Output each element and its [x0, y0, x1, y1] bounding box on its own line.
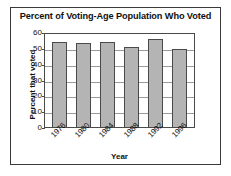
bar: [100, 42, 115, 127]
y-tick-mark: [42, 128, 45, 129]
y-tick-mark: [42, 65, 45, 66]
y-tick-label: 50: [28, 45, 42, 53]
bar: [76, 43, 91, 127]
y-tick-label: 60: [28, 29, 42, 37]
y-tick-label: 30: [28, 77, 42, 85]
y-tick-mark: [42, 96, 45, 97]
bar-series: [45, 34, 194, 127]
bar: [172, 49, 187, 127]
y-tick-label: 0: [28, 124, 42, 132]
bar: [52, 42, 67, 128]
y-tick-mark: [42, 112, 45, 113]
y-tick-mark: [42, 33, 45, 34]
x-axis-label: Year: [44, 152, 195, 161]
chart-title: Percent of Voting-Age Population Who Vot…: [10, 11, 221, 21]
y-tick-label: 40: [28, 61, 42, 69]
y-tick-mark: [42, 49, 45, 50]
bar: [124, 47, 139, 127]
plot-area: [44, 33, 195, 128]
chart-figure: Percent of Voting-Age Population Who Vot…: [0, 0, 231, 176]
y-tick-label: 20: [28, 92, 42, 100]
y-tick-mark: [42, 81, 45, 82]
y-tick-label: 10: [28, 108, 42, 116]
bar: [148, 39, 163, 127]
y-axis-ticks: 0102030405060: [26, 33, 42, 128]
